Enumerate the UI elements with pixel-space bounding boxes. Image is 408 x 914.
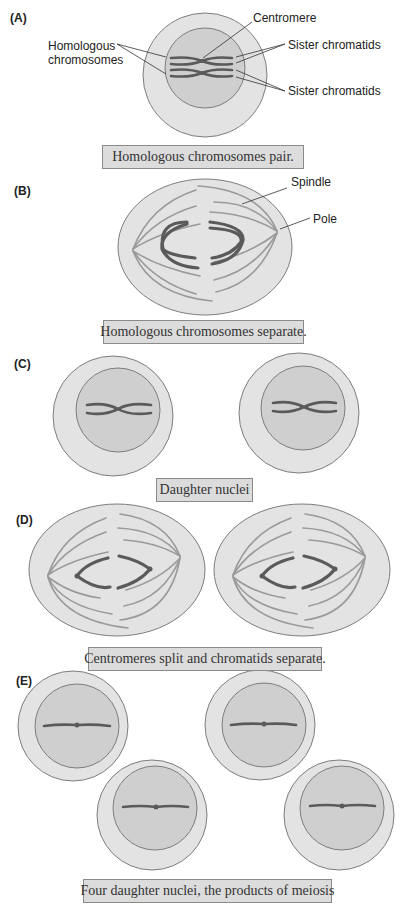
caption-panel-d: Centromeres split and chromatids separat… xyxy=(88,647,322,671)
nucleus xyxy=(165,28,245,108)
sister-chromatids-label-bottom: Sister chromatids xyxy=(288,84,381,98)
panel-d-label: (D) xyxy=(16,513,33,527)
caption-panel-c: Daughter nuclei xyxy=(156,478,253,502)
panel-a-label: (A) xyxy=(10,11,27,25)
dividing-cell-right xyxy=(214,504,390,636)
daughter-nucleus-1 xyxy=(18,671,128,781)
daughter-nucleus-3 xyxy=(97,760,207,870)
pole-label: Pole xyxy=(313,212,337,226)
meiosis-diagram: (A) Centromere Homologous chromosomes Si… xyxy=(0,0,408,914)
panel-c-label: (C) xyxy=(14,357,31,371)
daughter-cell-left xyxy=(53,356,173,476)
cell xyxy=(118,179,292,315)
panel-d: (D) xyxy=(16,504,390,636)
daughter-nucleus-2 xyxy=(205,670,315,780)
centromere xyxy=(200,71,204,75)
centromere-label: Centromere xyxy=(253,11,317,25)
caption-panel-b: Homologous chromosomes separate. xyxy=(103,320,304,344)
panel-c: (C) xyxy=(14,353,359,476)
dividing-cell-left xyxy=(29,504,205,636)
panel-e-label: (E) xyxy=(16,674,32,688)
daughter-cell-right xyxy=(239,353,359,473)
homologous-label-2: chromosomes xyxy=(48,53,123,67)
spindle-label: Spindle xyxy=(291,175,331,189)
caption-panel-a: Homologous chromosomes pair. xyxy=(102,145,304,169)
panel-e: (E) xyxy=(16,670,394,870)
panel-b: (B) Spindle Pole xyxy=(14,175,337,315)
centromere xyxy=(200,59,204,63)
caption-panel-e: Four daughter nuclei, the products of me… xyxy=(83,879,332,903)
sister-chromatids-label-top: Sister chromatids xyxy=(288,38,381,52)
daughter-nucleus-4 xyxy=(284,760,394,870)
panel-b-label: (B) xyxy=(14,184,31,198)
homologous-label-1: Homologous xyxy=(48,39,115,53)
panel-a: (A) Centromere Homologous chromosomes Si… xyxy=(10,11,381,137)
